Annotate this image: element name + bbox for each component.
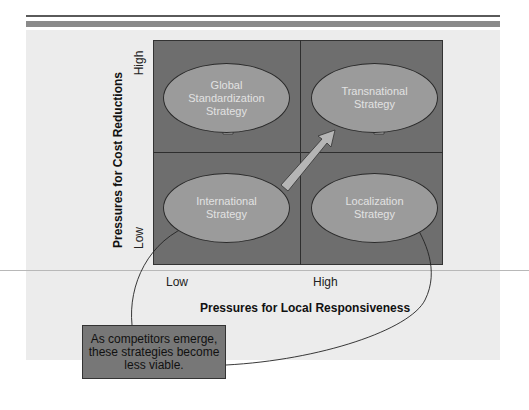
quadrant-label-line: Global xyxy=(188,79,264,92)
y-axis-title: Pressures for Cost Reductions xyxy=(111,72,125,248)
x-axis-low-label: Low xyxy=(166,275,188,289)
quadrant-label-line: Localization xyxy=(345,195,403,208)
arrow-diagonal-icon xyxy=(281,130,335,191)
y-axis-low-label: Low xyxy=(132,227,146,249)
quadrant-label-line: Strategy xyxy=(188,105,264,118)
quadrant-label-line: Strategy xyxy=(196,208,257,221)
quadrant-label-line: Transnational xyxy=(341,85,407,98)
ellipse-global-standardization: Global Standardization Strategy xyxy=(163,63,290,133)
x-axis-high-label: High xyxy=(313,275,338,289)
connector-curve-right xyxy=(226,221,431,365)
note-box: As competitors emerge, these strategies … xyxy=(82,325,226,379)
note-line: As competitors emerge, xyxy=(89,333,220,346)
x-axis-title: Pressures for Local Responsiveness xyxy=(200,301,410,315)
note-line: these strategies become xyxy=(89,346,220,359)
ellipse-transnational: Transnational Strategy xyxy=(311,63,438,133)
y-axis-high-label: High xyxy=(132,51,146,76)
ellipse-international: International Strategy xyxy=(163,173,290,243)
quadrant-label-line: Standardization xyxy=(188,92,264,105)
ellipse-localization: Localization Strategy xyxy=(311,173,438,243)
quadrant-label-line: International xyxy=(196,195,257,208)
quadrant-label-line: Strategy xyxy=(345,208,403,221)
note-line: less viable. xyxy=(89,359,220,372)
quadrant-label-line: Strategy xyxy=(341,98,407,111)
